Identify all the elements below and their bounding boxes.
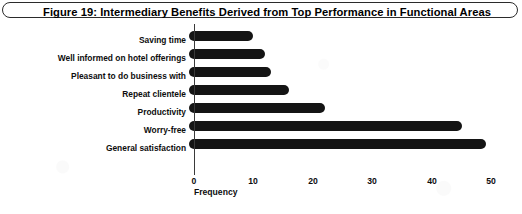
bar-pleasant (189, 67, 271, 77)
bar-well-informed (189, 49, 265, 59)
x-tick-40: 40 (427, 176, 437, 186)
bar-saving-time (189, 31, 253, 41)
axis-tick-origin (194, 171, 195, 175)
plot-area: Saving time Well informed on hotel offer… (0, 22, 522, 214)
x-tick-20: 20 (308, 176, 318, 186)
x-tick-0: 0 (192, 176, 197, 186)
bar-chart: Saving time Well informed on hotel offer… (0, 22, 522, 214)
x-tick-50: 50 (486, 176, 496, 186)
figure-title: Figure 19: Intermediary Benefits Derived… (3, 6, 517, 18)
bar-general-satisfaction (189, 139, 486, 149)
x-tick-30: 30 (367, 176, 377, 186)
bar-worry-free (189, 121, 462, 131)
bar-repeat-clientele (189, 85, 289, 95)
bars-layer (0, 22, 522, 214)
x-axis-title: Frequency (194, 187, 237, 197)
value-axis-line (194, 24, 195, 171)
bar-productivity (189, 103, 325, 113)
figure-title-banner: Figure 19: Intermediary Benefits Derived… (2, 2, 518, 18)
x-tick-10: 10 (248, 176, 258, 186)
